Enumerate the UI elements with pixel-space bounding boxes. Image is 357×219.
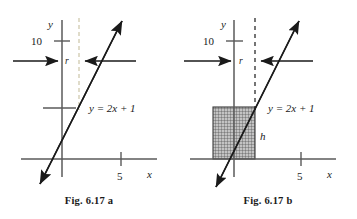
figure-a: y 10 r y = 2x + 1 5 x — [0, 0, 178, 219]
height-label-h-b: h — [260, 130, 266, 142]
figure-b-caption: Fig. 6.17 b — [179, 195, 357, 206]
line-equation-label-b: y = 2x + 1 — [267, 102, 315, 114]
y-tick-label-10-b: 10 — [203, 35, 215, 47]
x-tick-label-5-b: 5 — [297, 170, 303, 182]
y-tick-label-10-a: 10 — [31, 35, 43, 47]
axis-y-label-b: y — [220, 18, 226, 30]
axis-x-label-b: x — [326, 168, 332, 180]
gap-label-r-a: r — [65, 56, 69, 66]
line-equation-label-a: y = 2x + 1 — [88, 102, 136, 114]
x-tick-label-5-a: 5 — [117, 170, 123, 182]
figure-pair-container: y 10 r y = 2x + 1 5 x — [0, 0, 357, 219]
gap-label-r-b: r — [239, 56, 243, 66]
figure-b: y 10 r y = 2x + 1 h 5 x — [179, 0, 357, 219]
figure-a-caption: Fig. 6.17 a — [0, 195, 178, 206]
axis-x-label-a: x — [146, 168, 152, 180]
axis-y-label-a: y — [47, 18, 53, 30]
